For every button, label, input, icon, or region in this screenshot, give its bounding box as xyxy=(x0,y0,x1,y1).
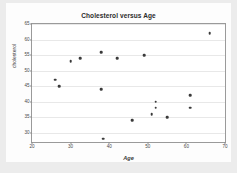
data-point xyxy=(208,32,211,35)
y-gridline xyxy=(32,24,225,25)
y-gridline xyxy=(32,117,225,118)
data-point xyxy=(189,107,192,110)
data-point xyxy=(79,57,82,60)
data-point xyxy=(116,57,119,60)
y-axis-label: cholesterol xyxy=(11,16,17,96)
data-point xyxy=(58,85,61,88)
y-tick-mark xyxy=(30,55,32,56)
y-tick-label: 35 xyxy=(24,115,29,120)
y-tick-label: 65 xyxy=(24,22,29,27)
data-point xyxy=(154,107,157,110)
data-point xyxy=(154,100,157,103)
y-gridline xyxy=(32,86,225,87)
x-tick-label: 20 xyxy=(29,145,34,150)
y-tick-label: 45 xyxy=(24,84,29,89)
data-point xyxy=(143,54,146,57)
data-point xyxy=(69,60,72,63)
y-tick-label: 30 xyxy=(24,130,29,135)
data-point xyxy=(100,51,103,54)
y-tick-mark xyxy=(30,132,32,133)
y-gridline xyxy=(32,133,225,134)
y-tick-label: 40 xyxy=(24,99,29,104)
chart-screenshot: Cholesterol versus Age 30354045505560652… xyxy=(0,0,237,173)
x-tick-label: 70 xyxy=(222,145,227,150)
y-tick-mark xyxy=(30,101,32,102)
chart-title: Cholesterol versus Age xyxy=(6,12,231,19)
figure-canvas: Cholesterol versus Age 30354045505560652… xyxy=(6,3,231,162)
data-point xyxy=(166,116,169,119)
data-point xyxy=(100,88,103,91)
data-point xyxy=(54,79,57,82)
y-gridline xyxy=(32,102,225,103)
y-tick-mark xyxy=(30,70,32,71)
y-tick-label: 60 xyxy=(24,37,29,42)
plot-area: 3035404550556065203040506070 xyxy=(31,23,226,143)
y-tick-label: 55 xyxy=(24,53,29,58)
y-gridline xyxy=(32,55,225,56)
data-point xyxy=(102,138,105,141)
data-point xyxy=(189,94,192,97)
x-tick-label: 30 xyxy=(68,145,73,150)
x-axis-label: Age xyxy=(31,155,226,161)
x-tick-label: 40 xyxy=(107,145,112,150)
y-tick-mark xyxy=(30,39,32,40)
y-gridline xyxy=(32,40,225,41)
x-tick-label: 50 xyxy=(145,145,150,150)
y-tick-mark xyxy=(30,24,32,25)
y-tick-mark xyxy=(30,117,32,118)
data-point xyxy=(150,113,153,116)
y-tick-mark xyxy=(30,86,32,87)
y-gridline xyxy=(32,71,225,72)
data-point xyxy=(131,119,134,122)
y-tick-label: 50 xyxy=(24,68,29,73)
x-tick-label: 60 xyxy=(184,145,189,150)
